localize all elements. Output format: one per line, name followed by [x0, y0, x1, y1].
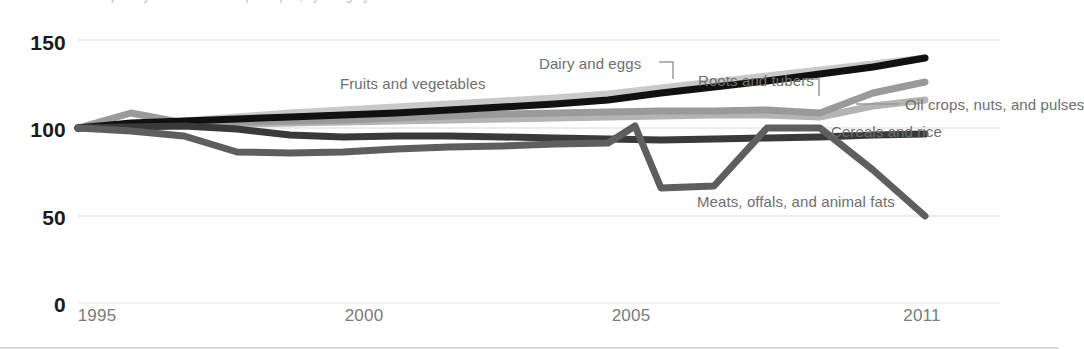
y-axis-tick-100: 100 — [6, 119, 66, 140]
series-label-cereals-and-rice: Cereals and rice — [831, 124, 942, 139]
y-axis-tick-150: 150 — [6, 32, 66, 53]
x-axis-tick-2011: 2011 — [877, 307, 967, 324]
y-axis-tick-50: 50 — [6, 207, 66, 228]
series-label-roots-and-tubers: Roots and tubers — [698, 73, 814, 88]
gridlines — [78, 40, 1000, 303]
leader-dairy-and-eggs — [659, 62, 673, 79]
series-label-fruits-and-vegetables: Fruits and vegetables — [340, 76, 486, 91]
series-label-meats-offals-and-animal-fats: Meats, offals, and animal fats — [697, 194, 895, 209]
series-label-dairy-and-eggs: Dairy and eggs — [539, 56, 641, 71]
x-axis-tick-1995: 1995 — [52, 307, 142, 324]
series-label-oil-crops-nuts-and-pulses: Oil crops, nuts, and pulses — [905, 97, 1084, 112]
x-axis-tick-2005: 2005 — [586, 307, 676, 324]
x-axis-tick-2000: 2000 — [319, 307, 409, 324]
